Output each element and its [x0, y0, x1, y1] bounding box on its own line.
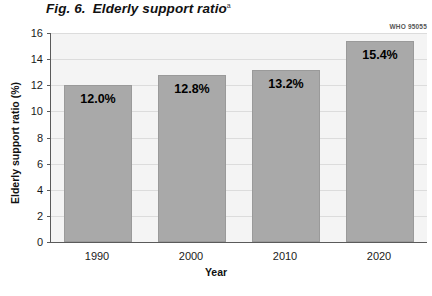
y-axis-tick-mark [47, 164, 51, 165]
x-axis-tick-label: 2010 [273, 250, 297, 262]
y-axis-tick-label: 12 [3, 79, 43, 91]
x-axis-tick-label: 2020 [367, 250, 391, 262]
figure-title-text: Elderly support ratio [93, 1, 227, 16]
bar-value-label: 12.0% [65, 92, 131, 106]
y-axis-tick-mark [47, 242, 51, 243]
bar-value-label: 13.2% [253, 77, 319, 91]
y-axis-tick-mark [47, 138, 51, 139]
y-axis-tick-label: 2 [3, 210, 43, 222]
y-axis-tick-label: 14 [3, 53, 43, 65]
bar: 13.2% [252, 70, 320, 242]
figure-number: Fig. 6. [46, 1, 86, 16]
y-axis-tick-label: 6 [3, 158, 43, 170]
who-code-label: WHO 95055 [389, 23, 427, 30]
y-axis-tick-label: 8 [3, 132, 43, 144]
bar: 12.0% [64, 85, 132, 242]
bar-value-label: 15.4% [347, 48, 413, 62]
y-axis-tick-label: 0 [3, 236, 43, 248]
x-axis-title: Year [0, 266, 432, 278]
y-axis-tick-label: 16 [3, 27, 43, 39]
y-axis-tick-mark [47, 59, 51, 60]
x-axis-tick-label: 1990 [85, 250, 109, 262]
bar: 12.8% [158, 75, 226, 242]
figure-title: Fig. 6.Elderly support ratioa [46, 1, 231, 16]
bar-value-label: 12.8% [159, 82, 225, 96]
y-axis-tick-mark [47, 216, 51, 217]
y-axis-tick-label: 10 [3, 105, 43, 117]
gridline [51, 33, 427, 34]
y-axis-tick-label: 4 [3, 184, 43, 196]
x-axis-tick-label: 2000 [179, 250, 203, 262]
figure-title-footnote-marker: a [227, 2, 231, 9]
y-axis-tick-mark [47, 85, 51, 86]
figure-container: Fig. 6.Elderly support ratioa WHO 95055 … [0, 0, 432, 296]
y-axis-tick-mark [47, 111, 51, 112]
bar: 15.4% [346, 41, 414, 242]
y-axis-tick-mark [47, 33, 51, 34]
y-axis-tick-mark [47, 190, 51, 191]
plot-area: Elderly support ratio (%) 12.0%12.8%13.2… [50, 33, 427, 243]
